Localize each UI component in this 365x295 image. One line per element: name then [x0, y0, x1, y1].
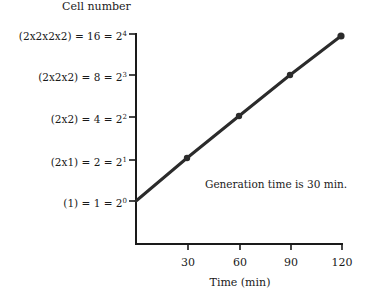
x-tick-label-30: 30 — [181, 256, 195, 269]
x-tick-label-90: 90 — [284, 256, 298, 269]
y-ticks — [129, 34, 136, 201]
generation-time-annotation: Generation time is 30 min. — [205, 178, 347, 190]
x-tick-label-60: 60 — [233, 256, 247, 269]
x-tick-label-120: 120 — [332, 256, 353, 269]
plot-area — [0, 0, 365, 295]
x-axis-title: Time (min) — [210, 276, 271, 289]
